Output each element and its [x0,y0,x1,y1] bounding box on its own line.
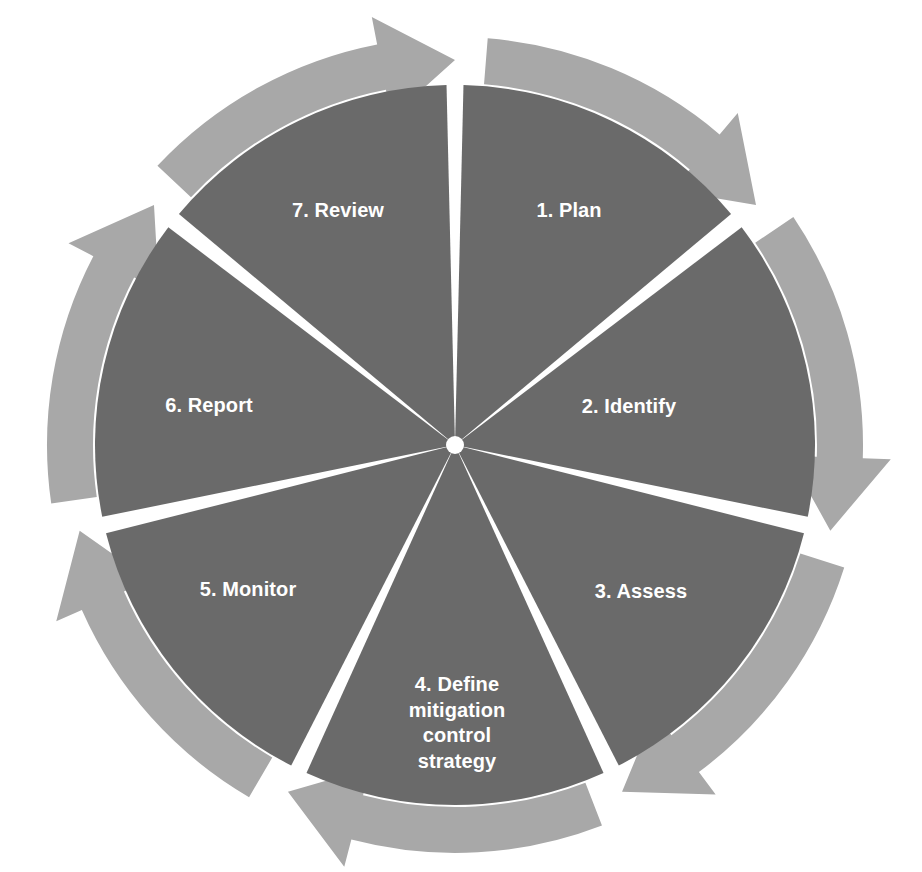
center-hub [446,436,464,454]
inner-disc [95,85,815,805]
circular-process-diagram: 1. Plan2. Identify3. Assess4. Define mit… [0,0,922,872]
cycle-graphic [0,0,922,872]
